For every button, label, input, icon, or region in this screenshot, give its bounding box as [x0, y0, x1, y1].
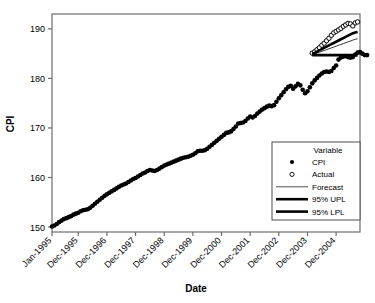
y-tick-label: 180 — [30, 74, 45, 84]
data-point — [365, 53, 370, 58]
y-tick-label: 190 — [30, 24, 45, 34]
x-axis-title: Date — [185, 283, 207, 294]
legend-entry-label: 95% UPL — [312, 195, 346, 204]
data-point — [298, 83, 303, 88]
legend-marker-open-circle-icon — [290, 172, 294, 176]
y-tick-label: 160 — [30, 173, 45, 183]
data-point — [305, 89, 310, 94]
cpi-forecast-chart: 150160170180190 Jan-1995Dec-1995Dec-1996… — [0, 0, 375, 303]
data-point — [308, 85, 313, 90]
legend-entry-label: CPI — [312, 158, 325, 167]
legend-marker-filled-circle-icon — [290, 160, 294, 164]
data-point — [334, 63, 339, 68]
legend-entry-label: Forecast — [312, 183, 344, 192]
y-tick-label: 150 — [30, 223, 45, 233]
chart-legend: VariableCPIActualForecast95% UPL95% LPL — [272, 142, 360, 220]
y-axis-title: CPI — [5, 115, 16, 132]
y-tick-label: 170 — [30, 123, 45, 133]
legend-entry-label: Actual — [312, 170, 334, 179]
data-point — [355, 20, 359, 24]
legend-title: Variable — [314, 146, 343, 155]
chart-svg: 150160170180190 Jan-1995Dec-1995Dec-1996… — [0, 0, 375, 303]
legend-entry-label: 95% LPL — [312, 208, 345, 217]
